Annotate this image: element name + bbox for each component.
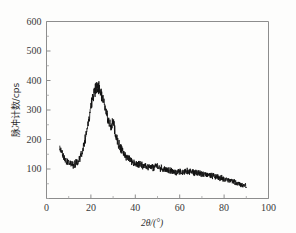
- chart-canvas: 020406080100 100200300400500600 2θ/(°) 脉…: [0, 0, 296, 233]
- x-tick-label: 100: [261, 202, 276, 213]
- y-tick-label: 600: [27, 16, 42, 27]
- y-tick-label: 300: [27, 104, 42, 115]
- y-tick-label: 400: [27, 75, 42, 86]
- x-axis-title-text: 2θ/(°): [141, 218, 163, 229]
- x-tick-label: 60: [175, 202, 185, 213]
- y-axis-tick-labels: 100200300400500600: [27, 16, 42, 175]
- x-tick-label: 20: [86, 202, 96, 213]
- y-tick-label: 200: [27, 134, 42, 145]
- x-axis-title: 2θ/(°): [141, 218, 163, 229]
- y-tick-label: 500: [27, 45, 42, 56]
- xrd-chart-figure: 020406080100 100200300400500600 2θ/(°) 脉…: [0, 0, 296, 233]
- plot-frame: [47, 22, 269, 199]
- x-tick-label: 40: [130, 202, 140, 213]
- y-axis-title-text: 脉冲计数/cps: [10, 83, 21, 138]
- x-tick-label: 80: [219, 202, 229, 213]
- x-axis-tick-labels: 020406080100: [44, 202, 276, 213]
- y-axis-title: 脉冲计数/cps: [10, 83, 21, 138]
- y-tick-label: 100: [27, 163, 42, 174]
- data-series-xrd: [60, 81, 246, 188]
- x-tick-label: 0: [44, 202, 49, 213]
